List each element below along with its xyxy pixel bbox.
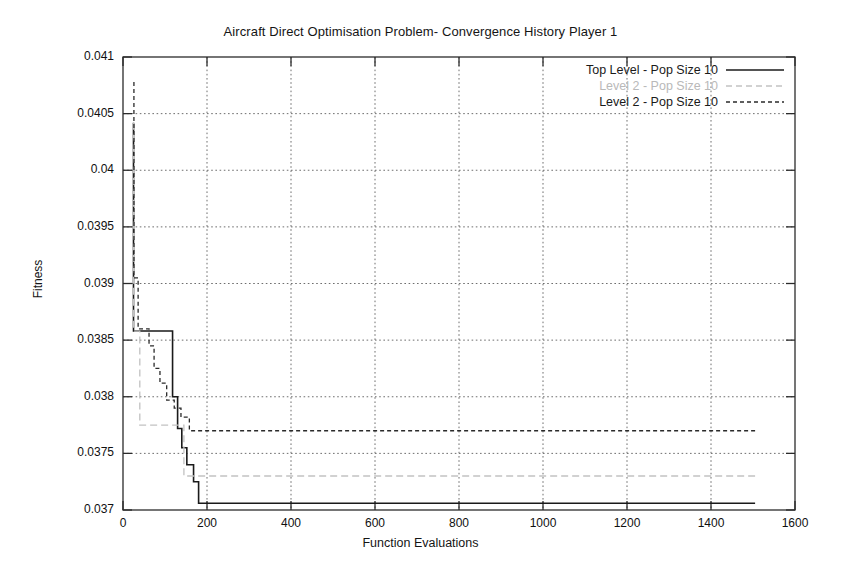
y-tick-label: 0.0395 [40,219,114,233]
y-tick-label: 0.039 [40,276,114,290]
x-tick-label: 200 [177,516,237,530]
y-tick-label: 0.04 [40,162,114,176]
legend-item-0[interactable]: Top Level - Pop Size 10 [540,62,784,78]
x-tick-label: 600 [345,516,405,530]
series-line-2 [134,82,755,431]
legend-item-1[interactable]: Level 2 - Pop Size 10 [540,78,784,94]
legend-label-1: Level 2 - Pop Size 10 [599,79,718,93]
legend: Top Level - Pop Size 10 Level 2 - Pop Si… [540,62,784,110]
y-tick-label: 0.038 [40,389,114,403]
legend-sample-dashed-icon [726,81,784,91]
x-tick-label: 0 [93,516,153,530]
x-tick-label: 1600 [765,516,825,530]
legend-label-2: Level 2 - Pop Size 10 [599,95,718,109]
x-tick-label: 1200 [597,516,657,530]
series-line-0 [134,123,756,504]
x-tick-label: 1400 [681,516,741,530]
x-tick-label: 1000 [513,516,573,530]
y-tick-label: 0.037 [40,502,114,516]
legend-item-2[interactable]: Level 2 - Pop Size 10 [540,94,784,110]
data-series-layer [134,82,756,503]
series-line-1 [134,123,756,476]
convergence-history-chart: Aircraft Direct Optimisation Problem- Co… [0,0,841,572]
legend-sample-solid-icon [726,65,784,75]
legend-label-0: Top Level - Pop Size 10 [586,63,718,77]
x-tick-label: 400 [261,516,321,530]
gridlines [123,57,795,510]
legend-sample-dotted-icon [726,97,784,107]
y-tick-label: 0.0405 [40,106,114,120]
x-tick-label: 800 [429,516,489,530]
y-tick-label: 0.041 [40,49,114,63]
y-tick-label: 0.0385 [40,332,114,346]
y-tick-label: 0.0375 [40,445,114,459]
